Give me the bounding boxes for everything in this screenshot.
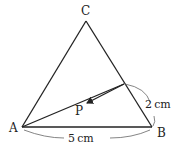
side-cb [86,21,152,127]
arrow-to-p [87,84,124,103]
label-p: P [75,104,83,118]
triangle-diagram: C A B P 5 cm 2 cm [0,0,179,148]
dimension-ab: 5 cm [68,132,94,145]
label-b: B [157,126,166,140]
label-c: C [81,4,90,18]
ab-brace-right [110,130,150,138]
segment-a-to-point-on-cb [22,84,124,127]
dimension-cb-segment: 2 cm [145,98,171,111]
cb-brace-bottom [153,116,155,126]
ab-brace-left [24,130,64,138]
label-a: A [8,121,18,135]
